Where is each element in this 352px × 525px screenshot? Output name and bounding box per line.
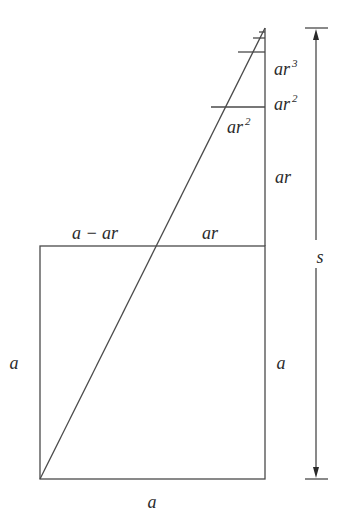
- svg-text:ar: ar: [274, 59, 291, 79]
- svg-text:2: 2: [245, 115, 251, 127]
- label-right-ar2: ar 2: [274, 92, 298, 114]
- svg-text:ar: ar: [274, 94, 291, 114]
- square: [40, 246, 265, 479]
- label-s: s: [316, 247, 323, 267]
- label-right-ar3: ar 3: [274, 57, 298, 79]
- label-triangle-ar2: ar 2: [227, 115, 251, 137]
- svg-text:2: 2: [292, 92, 298, 104]
- label-square-left: a: [10, 353, 19, 373]
- diagonal-line: [40, 28, 265, 479]
- svg-text:3: 3: [291, 57, 298, 69]
- label-square-right: a: [277, 353, 286, 373]
- svg-text:ar: ar: [227, 117, 244, 137]
- geometric-series-diagram: a a a a − ar ar ar s ar 2 ar 2 ar 3: [0, 0, 352, 525]
- label-top-ar: ar: [202, 223, 219, 243]
- arrow-down-icon: [313, 467, 319, 478]
- label-square-bottom: a: [148, 492, 157, 512]
- label-a-minus-ar: a − ar: [72, 223, 119, 243]
- label-right-ar: ar: [275, 167, 292, 187]
- arrow-up-icon: [313, 29, 319, 40]
